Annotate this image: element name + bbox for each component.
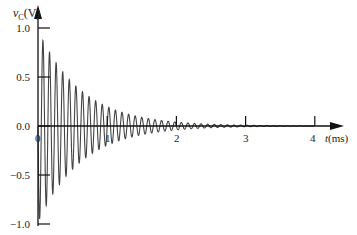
plot-area — [0, 0, 357, 235]
x-axis-arrow-icon — [330, 122, 344, 130]
waveform-line — [38, 40, 315, 218]
x-axis-unit: (ms) — [328, 132, 348, 144]
axes — [34, 5, 344, 226]
x-axis-label: t(ms) — [325, 133, 348, 144]
x-tick-label: 4 — [310, 133, 316, 144]
y-tick-label: 1.0 — [0, 23, 30, 34]
y-tick-label: 0.0 — [0, 121, 30, 132]
y-tick-label: −0.5 — [0, 170, 30, 181]
y-tick-label: −1.0 — [0, 219, 30, 230]
x-tick-label: 0 — [35, 133, 41, 144]
x-tick-label: 3 — [243, 133, 249, 144]
x-tick-label: 2 — [174, 133, 180, 144]
x-tick-label: 1 — [105, 133, 111, 144]
chart-container: vC(V) 1.0 0.5 0.0 −0.5 −1.0 0 1 2 3 4 t(… — [0, 0, 357, 235]
y-axis-unit: (V) — [24, 6, 41, 20]
y-tick-label: 0.5 — [0, 72, 30, 83]
